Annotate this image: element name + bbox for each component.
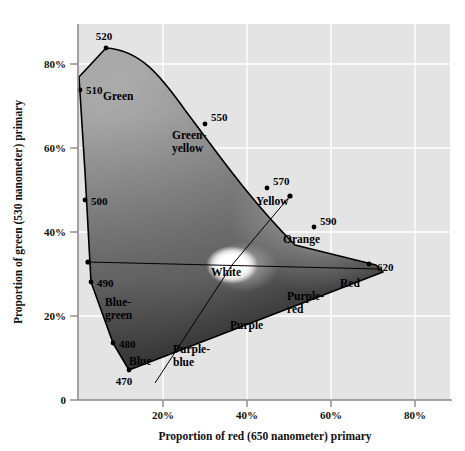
region-label-yellow: Yellow xyxy=(256,195,289,207)
x-tick-label-40: 40% xyxy=(236,409,258,421)
divider-dot-left xyxy=(85,259,90,264)
wl-dot-480 xyxy=(111,341,116,346)
region-label-purple-blue-line1: Purple- xyxy=(173,343,210,356)
y-tick-label-60: 60% xyxy=(44,142,66,154)
figure-stage: 0 20% 40% 60% 80% 20% 40% 60% 80% Propor… xyxy=(0,0,465,451)
x-axis-title: Proportion of red (650 nanometer) primar… xyxy=(158,430,371,443)
region-label-white: White xyxy=(211,266,241,278)
wavelength-label-510: 510 xyxy=(86,84,103,96)
region-label-purple: Purple xyxy=(230,319,263,332)
region-label-green-yellow-line1: Green- xyxy=(172,129,206,141)
y-tick-label-0: 0 xyxy=(61,394,67,406)
wl-dot-490 xyxy=(89,280,94,285)
region-label-blue: Blue xyxy=(129,355,151,367)
y-tick-label-20: 20% xyxy=(44,310,66,322)
region-label-purple-red-line1: Purple- xyxy=(287,290,324,303)
wl-dot-470 xyxy=(127,368,132,373)
wavelength-label-480: 480 xyxy=(119,338,136,350)
region-label-purple-red-line2: red xyxy=(287,303,304,315)
wavelength-label-550: 550 xyxy=(211,111,228,123)
x-tick-label-80: 80% xyxy=(404,409,426,421)
wl-dot-500 xyxy=(83,198,88,203)
wavelength-label-500: 500 xyxy=(91,195,108,207)
wavelength-label-490: 490 xyxy=(97,277,114,289)
wavelength-label-520: 520 xyxy=(96,30,113,42)
wavelength-label-570: 570 xyxy=(273,175,290,187)
region-label-orange: Orange xyxy=(283,233,320,246)
wl-dot-620 xyxy=(367,262,372,267)
wl-dot-520 xyxy=(104,46,109,51)
wl-dot-570 xyxy=(265,186,270,191)
region-label-blue-green-line1: Blue- xyxy=(105,296,131,308)
y-tick-label-40: 40% xyxy=(44,226,66,238)
y-axis-title: Proportion of green (530 nanometer) prim… xyxy=(12,100,25,324)
wavelength-label-470: 470 xyxy=(116,375,133,387)
wavelength-label-620: 620 xyxy=(377,261,394,273)
wavelength-label-590: 590 xyxy=(320,215,337,227)
x-tick-label-20: 20% xyxy=(152,409,174,421)
x-tick-label-60: 60% xyxy=(320,409,342,421)
region-label-green-yellow-line2: yellow xyxy=(172,142,204,155)
chromaticity-diagram: 0 20% 40% 60% 80% 20% 40% 60% 80% Propor… xyxy=(0,0,465,451)
wl-dot-590 xyxy=(312,225,317,230)
wl-dot-550 xyxy=(203,122,208,127)
y-tick-label-80: 80% xyxy=(44,58,66,70)
region-label-red: Red xyxy=(340,277,360,289)
region-label-green: Green xyxy=(103,90,134,102)
region-label-blue-green-line2: green xyxy=(105,309,133,322)
region-label-purple-blue-line2: blue xyxy=(173,356,194,368)
